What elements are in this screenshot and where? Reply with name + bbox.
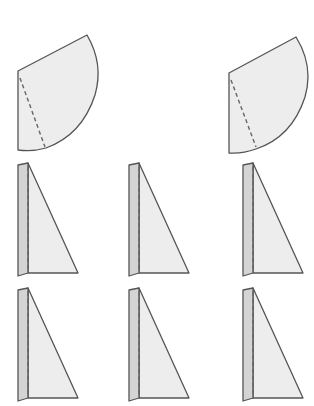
triangle-piece [129,288,189,401]
sector-piece [18,35,98,151]
triangle-piece [18,163,78,276]
triangle-piece [243,163,303,276]
triangle-piece [243,288,303,401]
triangle-piece [129,163,189,276]
triangle-piece [18,288,78,401]
folding-diagram [0,0,314,406]
sector-piece [229,37,308,153]
